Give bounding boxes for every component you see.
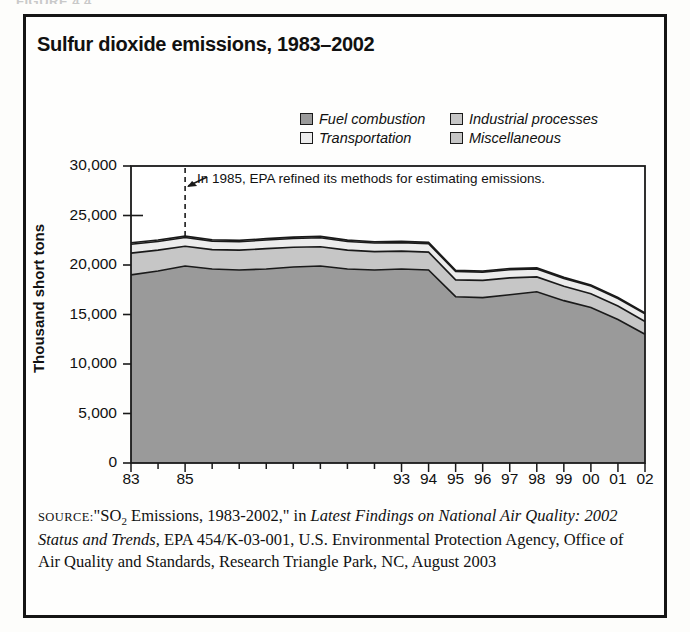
y-tick-label: 5,000 — [45, 404, 117, 422]
source-text-a: "SO — [94, 506, 122, 525]
x-tick-label: 99 — [549, 470, 579, 488]
y-tick-label: 20,000 — [45, 255, 117, 273]
chart-annotation: In 1985, EPA refined its methods for est… — [197, 171, 545, 186]
x-tick-label: 02 — [630, 470, 660, 488]
x-tick-label: 94 — [414, 470, 444, 488]
source-label: SOURCE: — [38, 510, 94, 524]
source-text-b: Emissions, 1983-2002," in — [127, 506, 311, 525]
x-tick-label: 00 — [576, 470, 606, 488]
x-tick-label: 01 — [603, 470, 633, 488]
x-tick-label: 97 — [495, 470, 525, 488]
source-note: SOURCE:"SO2 Emissions, 1983-2002," in La… — [38, 505, 646, 572]
x-tick-label: 83 — [116, 470, 146, 488]
x-tick-label: 98 — [522, 470, 552, 488]
y-tick-label: 10,000 — [45, 354, 117, 372]
x-tick-label: 93 — [387, 470, 417, 488]
y-tick-label: 25,000 — [45, 206, 117, 224]
y-tick-label: 0 — [45, 453, 117, 471]
y-tick-label: 30,000 — [45, 156, 117, 174]
y-tick-label: 15,000 — [45, 305, 117, 323]
x-tick-label: 85 — [170, 470, 200, 488]
x-tick-label: 95 — [441, 470, 471, 488]
x-tick-label: 96 — [468, 470, 498, 488]
